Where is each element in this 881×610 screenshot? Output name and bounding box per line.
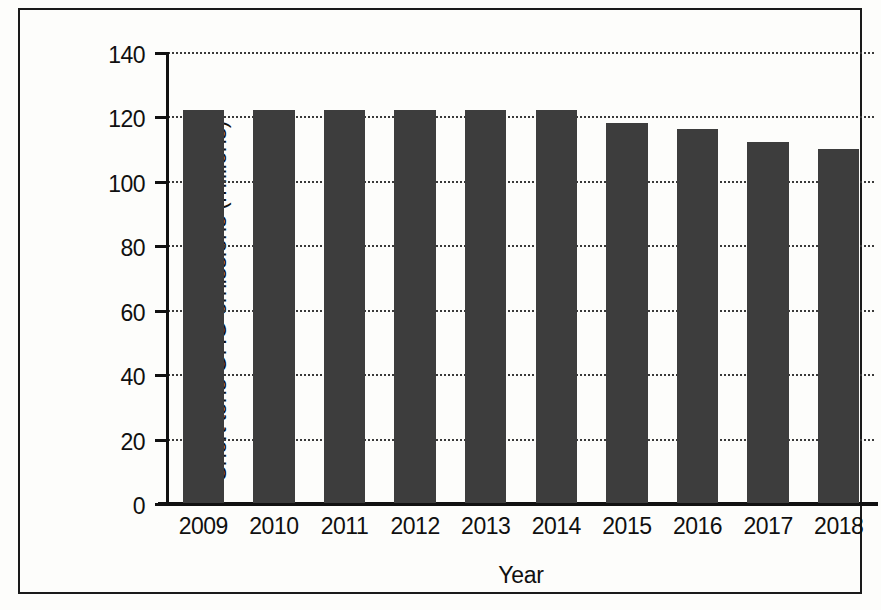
bar-2015 <box>606 123 647 503</box>
bar-2018 <box>818 149 859 503</box>
y-tick-label-80: 80 <box>120 235 145 262</box>
bar-2017 <box>747 142 788 503</box>
y-tick-40: 40 <box>155 374 167 377</box>
bar-2013 <box>465 110 506 503</box>
figure-frame: Short tons GHG emissions (millions) 0204… <box>18 8 862 594</box>
y-tick-label-120: 120 <box>108 106 145 133</box>
y-tick-100: 100 <box>155 181 167 184</box>
x-tick-label-2012: 2012 <box>391 513 440 540</box>
y-tick-label-40: 40 <box>120 364 145 391</box>
x-tick-label-2009: 2009 <box>179 513 228 540</box>
y-tick-80: 80 <box>155 245 167 248</box>
x-tick-label-2016: 2016 <box>673 513 722 540</box>
bar-2014 <box>536 110 577 503</box>
plot-inner: 020406080100120140 200920102011201220132… <box>168 52 874 503</box>
y-tick-label-20: 20 <box>120 428 145 455</box>
x-axis-title: Year <box>168 562 874 589</box>
x-tick-label-2010: 2010 <box>249 513 298 540</box>
y-tick-140: 140 <box>155 52 167 55</box>
x-tick-label-2014: 2014 <box>532 513 581 540</box>
y-tick-20: 20 <box>155 439 167 442</box>
y-tick-60: 60 <box>155 310 167 313</box>
plot-area: 020406080100120140 200920102011201220132… <box>168 52 874 503</box>
y-axis-line <box>166 52 169 503</box>
y-tick-label-140: 140 <box>108 42 145 69</box>
bar-2010 <box>253 110 294 503</box>
y-tick-label-0: 0 <box>133 493 145 520</box>
bar-2009 <box>183 110 224 503</box>
x-tick-label-2013: 2013 <box>461 513 510 540</box>
gridline-140 <box>168 52 874 54</box>
bar-2016 <box>677 129 718 503</box>
chart-page: Short tons GHG emissions (millions) 0204… <box>0 0 881 610</box>
y-tick-0: 0 <box>155 503 167 506</box>
bar-2011 <box>324 110 365 503</box>
bar-2012 <box>394 110 435 503</box>
x-tick-label-2015: 2015 <box>602 513 651 540</box>
y-tick-label-60: 60 <box>120 299 145 326</box>
x-tick-label-2017: 2017 <box>744 513 793 540</box>
y-tick-label-100: 100 <box>108 170 145 197</box>
y-tick-120: 120 <box>155 116 167 119</box>
x-tick-label-2011: 2011 <box>321 513 368 540</box>
x-tick-label-2018: 2018 <box>814 513 863 540</box>
